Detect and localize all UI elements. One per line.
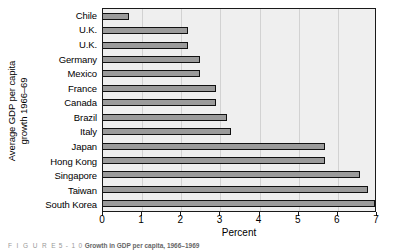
bar-row — [103, 124, 375, 138]
category-label: South Korea — [34, 198, 100, 213]
category-label: Chile — [34, 8, 100, 23]
x-axis-tick-label: 5 — [295, 214, 301, 225]
bar-row — [103, 9, 375, 23]
bar — [102, 27, 188, 34]
y-axis-label-line2: growth 1966–69 — [17, 60, 29, 160]
bar-row — [103, 23, 375, 37]
bar-row — [103, 81, 375, 95]
x-axis-tick-labels: 01234567 — [102, 214, 376, 228]
category-label: Taiwan — [34, 183, 100, 198]
x-axis-label: Percent — [102, 227, 376, 238]
x-axis-tick-label: 2 — [178, 214, 184, 225]
bar — [102, 114, 227, 121]
bar — [102, 42, 188, 49]
x-axis-tick-label: 7 — [373, 214, 379, 225]
bar — [102, 200, 375, 207]
category-label: Mexico — [34, 66, 100, 81]
bar — [102, 157, 325, 164]
bar — [102, 13, 129, 20]
category-label: Germany — [34, 52, 100, 67]
x-axis-tick-label: 4 — [256, 214, 262, 225]
bar — [102, 186, 368, 193]
y-axis-label-line1: Average GDP per capita — [6, 60, 18, 160]
caption-figure-number: 5 - 1 0 — [59, 242, 83, 249]
caption-title: Growth in GDP per capita, 1966–1969 — [85, 242, 200, 249]
category-label: France — [34, 81, 100, 96]
bar-row — [103, 182, 375, 196]
x-axis-tick-label: 0 — [99, 214, 105, 225]
bar — [102, 85, 216, 92]
bar-row — [103, 168, 375, 182]
category-label: Canada — [34, 95, 100, 110]
category-label: Singapore — [34, 168, 100, 183]
bar-row — [103, 139, 375, 153]
bar — [102, 143, 325, 150]
bar — [102, 128, 231, 135]
figure-caption: F I G U R E 5 - 1 0 Growth in GDP per ca… — [8, 242, 397, 250]
x-axis-tick-label: 3 — [217, 214, 223, 225]
bar — [102, 56, 200, 63]
category-label: U.K. — [34, 23, 100, 38]
y-axis-label-text: Average GDP per capita growth 1966–69 — [6, 60, 29, 160]
bar-series — [103, 9, 375, 211]
figure-container: Average GDP per capita growth 1966–69 Ch… — [0, 0, 397, 250]
bar-row — [103, 52, 375, 66]
category-label: Italy — [34, 125, 100, 140]
bar — [102, 171, 360, 178]
y-axis-label: Average GDP per capita growth 1966–69 — [0, 8, 34, 213]
bar — [102, 99, 216, 106]
bar-row — [103, 96, 375, 110]
plot-area — [102, 8, 376, 212]
caption-figure-word: F I G U R E — [8, 242, 57, 249]
bar-row — [103, 38, 375, 52]
x-axis-tick-label: 6 — [334, 214, 340, 225]
bar-row — [103, 196, 375, 210]
category-label: Japan — [34, 139, 100, 154]
category-label: Hong Kong — [34, 154, 100, 169]
x-axis-tick-label: 1 — [138, 214, 144, 225]
bar-row — [103, 110, 375, 124]
category-axis-labels: ChileU.K.U.K.GermanyMexicoFranceCanadaBr… — [34, 8, 100, 212]
bar-row — [103, 67, 375, 81]
bar-row — [103, 153, 375, 167]
bar — [102, 70, 200, 77]
category-label: U.K. — [34, 37, 100, 52]
category-label: Brazil — [34, 110, 100, 125]
